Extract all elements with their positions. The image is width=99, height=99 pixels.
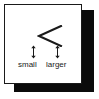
figure-card: small larger [4,4,82,84]
figure-card-inner: small larger [5,5,81,83]
up-down-arrow-icon-small [29,45,38,59]
figure-root: small larger [0,0,99,99]
up-down-arrow-icon-larger [53,45,62,59]
less-than-icon [37,25,63,47]
label-larger: larger [46,60,66,70]
label-small: small [18,60,37,70]
